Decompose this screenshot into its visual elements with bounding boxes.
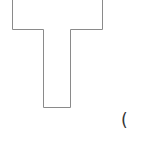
t-shape-outline [0,0,168,142]
diagram-canvas: ( [0,0,168,142]
open-parenthesis-label: ( [121,110,128,130]
